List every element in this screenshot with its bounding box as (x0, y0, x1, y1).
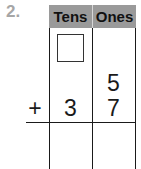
answer-tens-cell[interactable] (50, 123, 92, 169)
addend-1-ones: 5 (92, 71, 135, 95)
answer-ones-cell[interactable] (93, 123, 135, 169)
header-tens: Tens (49, 5, 92, 28)
plus-sign: + (25, 96, 45, 120)
problem-number: 2. (6, 2, 20, 22)
addend-2-tens: 3 (49, 96, 92, 120)
addend-2-ones: 7 (92, 96, 135, 120)
column-line-right (135, 28, 136, 169)
regroup-box[interactable] (57, 34, 84, 62)
place-value-header: Tens Ones (49, 5, 136, 28)
header-ones: Ones (93, 5, 136, 28)
